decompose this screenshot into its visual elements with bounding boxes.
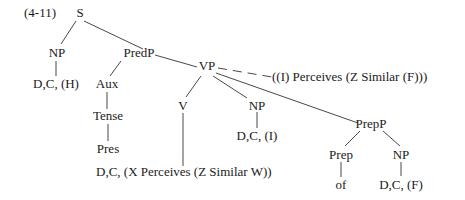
edge-predp-aux [110,61,121,76]
node-predp: PredP [123,46,154,60]
node-prepp: PrepP [355,117,386,131]
edge-vp-annotation [218,68,272,77]
node-pres: Pres [97,142,119,156]
node-s: S [76,6,83,20]
node-v: V [178,99,187,113]
node-v-leaf: D,C, (X Perceives (Z Similar W)) [96,165,272,179]
node-vp: VP [199,59,216,73]
node-np-object: NP [249,99,266,113]
example-label: (4-11) [24,6,56,20]
node-tense: Tense [93,109,123,123]
edge-predp-vp [155,55,197,67]
node-np-subject: NP [49,46,66,60]
edge-prepp-prep [345,131,360,146]
edge-s-np [61,21,76,44]
node-prep: Prep [329,148,353,162]
node-prep-leaf: of [336,178,347,192]
node-np-prep-leaf: D,C, (F) [379,178,423,192]
node-vp-annotation: ((I) Perceives (Z Similar (F))) [272,70,427,84]
node-np-subject-leaf: D,C, (H) [33,77,79,91]
edge-vp-v [186,76,201,97]
edge-prepp-np [383,131,400,146]
node-np-object-leaf: D,C, (I) [237,129,278,143]
edge-vp-np [213,76,247,98]
node-aux: Aux [96,77,118,91]
node-np-prep: NP [393,148,410,162]
